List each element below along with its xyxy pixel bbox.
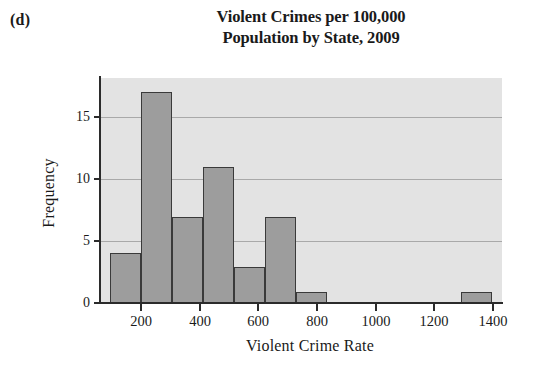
x-tick-label-1200: 1200 bbox=[404, 313, 464, 329]
x-tick-label-1000: 1000 bbox=[346, 313, 406, 329]
y-tick-5 bbox=[94, 240, 100, 242]
x-tick-label-800: 800 bbox=[287, 313, 347, 329]
x-tick-1400 bbox=[492, 304, 494, 311]
y-tick-0 bbox=[94, 302, 100, 304]
y-axis-line bbox=[99, 76, 101, 304]
y-tick-10 bbox=[94, 178, 100, 180]
x-tick-600 bbox=[257, 304, 259, 311]
bar-500-600 bbox=[234, 267, 265, 304]
x-tick-label-1400: 1400 bbox=[463, 313, 523, 329]
x-tick-1200 bbox=[433, 304, 435, 311]
histogram-figure: (d) Violent Crimes per 100,000 Populatio… bbox=[0, 0, 544, 372]
panel-label: (d) bbox=[10, 11, 30, 29]
y-tick-label-15: 15 bbox=[60, 110, 90, 124]
y-tick-label-10: 10 bbox=[60, 172, 90, 186]
y-tick-label-5: 5 bbox=[60, 234, 90, 248]
x-tick-800 bbox=[316, 304, 318, 311]
y-axis-title: Frequency bbox=[40, 128, 58, 258]
x-tick-200 bbox=[140, 304, 142, 311]
bar-300-400 bbox=[172, 217, 203, 304]
y-tick-15 bbox=[94, 116, 100, 118]
x-axis-title: Violent Crime Rate bbox=[130, 337, 490, 355]
x-tick-label-200: 200 bbox=[111, 313, 171, 329]
x-tick-1000 bbox=[375, 304, 377, 311]
y-tick-label-0: 0 bbox=[60, 296, 90, 310]
x-tick-label-400: 400 bbox=[170, 313, 230, 329]
bar-100-200 bbox=[110, 253, 141, 304]
x-tick-400 bbox=[199, 304, 201, 311]
chart-title-line-1: Violent Crimes per 100,000 bbox=[120, 6, 502, 27]
bar-400-500 bbox=[203, 167, 234, 304]
x-axis-line bbox=[99, 302, 503, 304]
bar-200-300 bbox=[141, 92, 172, 304]
chart-title: Violent Crimes per 100,000 Population by… bbox=[120, 6, 502, 48]
chart-title-line-2: Population by State, 2009 bbox=[120, 27, 502, 48]
bar-600-700 bbox=[265, 217, 296, 304]
x-tick-label-600: 600 bbox=[228, 313, 288, 329]
